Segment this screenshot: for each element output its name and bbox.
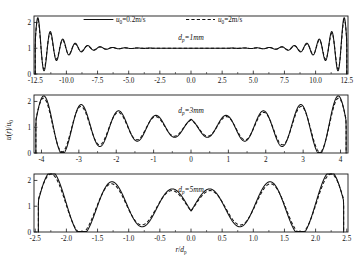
x-tick-label: 7.5 bbox=[280, 77, 289, 85]
x-tick-label: -1.5 bbox=[92, 235, 104, 243]
panel-1-curve-solid bbox=[35, 18, 347, 74]
x-tick-label: -10.0 bbox=[59, 77, 74, 85]
x-tick-label: 2.5 bbox=[342, 235, 351, 243]
x-tick-label: -1.0 bbox=[123, 235, 135, 243]
panel-3-annotation: dp=5mm bbox=[178, 185, 204, 195]
x-tick-label: -0.5 bbox=[154, 235, 166, 243]
panel-1-curve-dashed bbox=[35, 20, 347, 74]
multi-panel-line-chart: u0=0.2m/s u0=2m/s u(r)/u0 r/dp dp=1mm -1… bbox=[0, 0, 361, 268]
panel-dp-5mm: dp=5mm -2.5-2.0-1.5-1.0-0.50.00.51.01.52… bbox=[27, 174, 351, 243]
x-tick-label: 0.0 bbox=[187, 235, 196, 243]
x-tick-label: 10.0 bbox=[309, 77, 322, 85]
x-tick-label: -1 bbox=[151, 156, 157, 164]
x-tick-label: -3 bbox=[76, 156, 82, 164]
panel-2-curve-solid bbox=[36, 96, 346, 153]
y-tick-label: 2 bbox=[27, 177, 31, 185]
panel-1-annotation: dp=1mm bbox=[178, 33, 204, 43]
x-tick-label: -2.0 bbox=[61, 235, 73, 243]
x-tick-label: -2.5 bbox=[154, 77, 166, 85]
y-tick-label: 2 bbox=[27, 19, 31, 27]
x-tick-label: -2.5 bbox=[30, 235, 42, 243]
panel-2-frame bbox=[34, 95, 348, 153]
x-tick-label: -4 bbox=[38, 156, 44, 164]
legend-label-series-1: u0=2m/s bbox=[218, 16, 242, 25]
x-tick-label: 1.5 bbox=[280, 235, 289, 243]
x-tick-label: 0 bbox=[189, 156, 193, 164]
panel-dp-1mm: dp=1mm -12.5-10.0-7.5-5.0-2.50.02.55.07.… bbox=[27, 16, 353, 85]
panel-1-tick-labels: -12.5-10.0-7.5-5.0-2.50.02.55.07.510.012… bbox=[27, 19, 353, 85]
y-tick-label: 0 bbox=[27, 229, 31, 237]
panel-3-frame bbox=[34, 174, 348, 232]
y-tick-label: 0 bbox=[27, 71, 31, 79]
x-axis-label: r/dp bbox=[175, 245, 187, 255]
legend: u0=0.2m/s u0=2m/s bbox=[84, 16, 242, 25]
legend-label-series-0: u0=0.2m/s bbox=[116, 16, 146, 25]
x-tick-label: 2.0 bbox=[311, 235, 320, 243]
x-tick-label: 5.0 bbox=[249, 77, 258, 85]
y-tick-label: 1 bbox=[27, 45, 31, 53]
panel-dp-3mm: dp=3mm -4-3-2-101234012 bbox=[27, 95, 348, 164]
x-tick-label: -2 bbox=[113, 156, 119, 164]
x-tick-label: 4 bbox=[339, 156, 343, 164]
x-tick-label: 2 bbox=[264, 156, 268, 164]
x-tick-label: -5.0 bbox=[123, 77, 135, 85]
panel-2-annotation: dp=3mm bbox=[178, 106, 204, 116]
x-tick-label: 2.5 bbox=[218, 77, 227, 85]
x-tick-label: 0.5 bbox=[218, 235, 227, 243]
y-tick-label: 1 bbox=[27, 124, 31, 132]
x-tick-label: 12.5 bbox=[340, 77, 353, 85]
x-tick-label: 1 bbox=[227, 156, 231, 164]
y-tick-label: 0 bbox=[27, 150, 31, 158]
panel-3-curve-dashed bbox=[38, 174, 343, 232]
panel-3-curve-solid bbox=[38, 174, 343, 232]
x-tick-label: 3 bbox=[301, 156, 305, 164]
figure-container: u0=0.2m/s u0=2m/s u(r)/u0 r/dp dp=1mm -1… bbox=[0, 0, 361, 268]
y-tick-label: 2 bbox=[27, 98, 31, 106]
y-axis-label: u(r)/u0 bbox=[4, 120, 14, 140]
y-tick-label: 1 bbox=[27, 203, 31, 211]
x-tick-label: 0.0 bbox=[187, 77, 196, 85]
x-tick-label: 1.0 bbox=[249, 235, 258, 243]
x-tick-label: -7.5 bbox=[92, 77, 104, 85]
panel-1-frame bbox=[34, 16, 348, 74]
